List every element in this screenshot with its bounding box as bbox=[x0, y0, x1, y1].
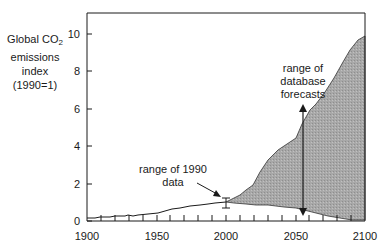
x-tick-label: 2100 bbox=[353, 230, 377, 242]
x-tick-label: 2050 bbox=[284, 230, 308, 242]
y-tick-label: 10 bbox=[68, 28, 80, 40]
y-tick-label: 4 bbox=[74, 140, 80, 152]
y-label-line: index bbox=[2, 64, 68, 78]
annotation-line: range of bbox=[262, 62, 344, 75]
y-axis-label: Global CO2 emissions index (1990=1) bbox=[2, 32, 68, 92]
y-tick-label: 2 bbox=[74, 178, 80, 190]
annotation-line: forecasts bbox=[262, 88, 344, 101]
y-tick-label: 8 bbox=[74, 65, 80, 77]
annotation-forecasts: range of database forecasts bbox=[262, 62, 344, 101]
y-tick-label: 0 bbox=[74, 215, 80, 227]
annotation-line: range of 1990 bbox=[128, 163, 218, 176]
range-1990-errorbar bbox=[222, 198, 230, 208]
y-label-line: Global CO bbox=[7, 33, 58, 45]
y-tick-label: 6 bbox=[74, 103, 80, 115]
annotation-line: database bbox=[262, 75, 344, 88]
y-label-line: emissions bbox=[2, 50, 68, 64]
y-axis-ticks bbox=[87, 34, 92, 221]
subscript-2: 2 bbox=[58, 38, 62, 47]
annotation-line: data bbox=[128, 176, 218, 189]
x-axis-ticks bbox=[101, 215, 351, 221]
x-tick-label: 2000 bbox=[214, 230, 238, 242]
x-tick-label: 1900 bbox=[75, 230, 99, 242]
y-label-line: (1990=1) bbox=[2, 78, 68, 92]
x-tick-label: 1950 bbox=[145, 230, 169, 242]
annotation-1990: range of 1990 data bbox=[128, 163, 218, 189]
